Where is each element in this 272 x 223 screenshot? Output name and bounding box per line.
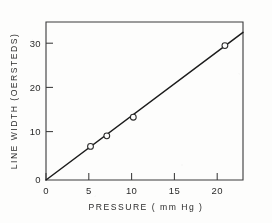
y-tick-label-10: 10 <box>30 126 41 137</box>
plot-svg: 30 20 10 0 0 5 10 15 20 PRESSURE ( mm Hg… <box>0 0 272 223</box>
x-axis-title: PRESSURE ( mm Hg ) <box>89 202 204 212</box>
y-tick-label-0: 0 <box>35 174 41 185</box>
fit-line <box>46 32 243 180</box>
x-tick-label-10: 10 <box>126 185 137 196</box>
x-tick-label-5: 5 <box>86 185 92 196</box>
data-point <box>88 144 94 150</box>
y-axis-title: LINE WIDTH (OERSTEDS) <box>9 33 19 170</box>
x-tick-label-20: 20 <box>212 185 223 196</box>
data-point <box>104 133 110 139</box>
x-tick-label-0: 0 <box>43 185 49 196</box>
x-tick-label-15: 15 <box>169 185 180 196</box>
plot-frame <box>46 22 243 180</box>
chart-figure: 30 20 10 0 0 5 10 15 20 PRESSURE ( mm Hg… <box>0 0 272 223</box>
data-point <box>130 114 136 120</box>
y-tick-label-20: 20 <box>30 82 41 93</box>
y-tick-label-30: 30 <box>30 38 41 49</box>
data-point <box>222 43 228 49</box>
